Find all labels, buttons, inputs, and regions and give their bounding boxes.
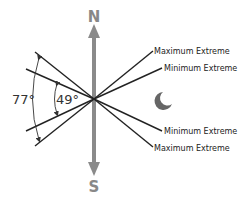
moon-icon bbox=[155, 92, 172, 110]
max-extreme-label-upper: Maximum Extreme bbox=[154, 47, 230, 56]
max-extreme-line-upper bbox=[94, 51, 153, 99]
north-label: N bbox=[88, 8, 101, 26]
min-extreme-label-upper: Minimum Extreme bbox=[164, 64, 237, 73]
north-arrow-icon bbox=[88, 24, 100, 38]
south-label: S bbox=[89, 178, 100, 196]
max-extreme-label-lower: Maximum Extreme bbox=[154, 144, 230, 153]
south-arrow-icon bbox=[88, 162, 100, 176]
min-extreme-label-lower: Minimum Extreme bbox=[164, 127, 237, 136]
min-extreme-line-upper bbox=[94, 68, 162, 99]
compass-axis bbox=[88, 24, 100, 176]
outer-angle-label: 77° bbox=[12, 92, 35, 107]
inner-angle-label: 49° bbox=[56, 92, 79, 107]
solstice-diagram: N S 77° 49° Maximum Extreme Minimum Extr… bbox=[0, 0, 248, 204]
